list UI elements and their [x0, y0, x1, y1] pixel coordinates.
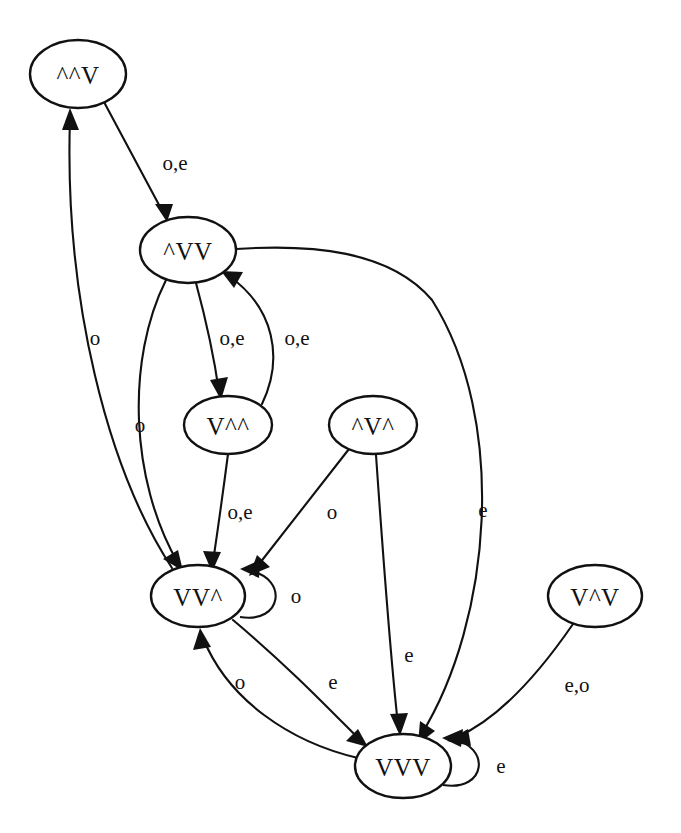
edge-vvu-to-vvv	[233, 620, 368, 747]
state-label: VVV	[375, 754, 431, 781]
edge-path	[203, 638, 358, 758]
state-label: VV^	[173, 584, 222, 611]
edge-label-vvv-to-vvu: o	[235, 670, 246, 694]
edge-label-hvu-to-vvv: e	[404, 643, 413, 667]
state-node-v-v-v[interactable]: VVV	[355, 734, 451, 798]
arrowhead-icon	[442, 729, 463, 747]
edge-label-hvv-to-vvu: o	[135, 413, 146, 437]
state-label: ^VV	[163, 238, 212, 265]
state-node-v-head-head[interactable]: V^^	[184, 396, 272, 454]
edge-hvv-to-vvu	[139, 280, 183, 571]
edge-label-vvu-self-loop: o	[291, 584, 302, 608]
edge-path	[236, 248, 482, 735]
state-diagram-canvas: ^^V ^VV V^^ ^V^ VV^ V^V VVV o,e o	[0, 0, 681, 833]
state-label: V^V	[570, 584, 619, 611]
state-label: ^^V	[56, 62, 99, 89]
edge-label-vvv-self-loop: e	[496, 754, 505, 778]
edge-label-hvv-to-vhh: o,e	[219, 326, 244, 350]
edge-path	[457, 624, 573, 737]
arrowhead-icon	[193, 628, 211, 650]
edge-path	[376, 455, 398, 725]
edge-label-vhh-to-vvu: o,e	[227, 500, 252, 524]
edge-path	[104, 102, 166, 218]
state-label: ^V^	[351, 413, 394, 440]
edge-vhh-to-vvu	[203, 454, 228, 572]
edge-label-vhv-to-vvv: e,o	[564, 673, 589, 697]
edge-vvv-to-hvv	[236, 248, 482, 744]
arrowhead-icon	[62, 108, 79, 130]
edge-label-hvu-to-vvu: o	[327, 500, 338, 524]
state-label: V^^	[206, 413, 249, 440]
edge-label-head-to-hvv: o,e	[162, 151, 187, 175]
state-node-head-v-v[interactable]: ^VV	[140, 217, 236, 283]
edge-label-vhh-to-hvv: o,e	[284, 326, 309, 350]
state-node-head-v-head[interactable]: ^V^	[329, 396, 417, 454]
edge-label-vvu-to-head: o	[90, 326, 101, 350]
state-node-v-v-head[interactable]: VV^	[151, 565, 245, 627]
state-machine-graph: ^^V ^VV V^^ ^V^ VV^ V^V VVV o,e o	[0, 0, 681, 833]
edge-vhv-to-vvv	[447, 624, 573, 746]
edge-vvu-self-loop	[240, 560, 276, 618]
edge-hvu-to-vvv	[376, 455, 408, 736]
edge-label-vvv-to-hvv: e	[478, 498, 487, 522]
edge-label-vvu-to-vvv: e	[328, 670, 337, 694]
state-node-v-head-v[interactable]: V^V	[548, 565, 642, 627]
arrowhead-icon	[346, 729, 368, 747]
edge-path	[196, 283, 219, 392]
edge-path	[69, 118, 172, 568]
edge-vvu-to-head	[62, 108, 172, 568]
state-node-head-head-v[interactable]: ^^V	[30, 40, 126, 108]
edge-path	[233, 620, 360, 740]
edge-path	[213, 454, 228, 562]
arrowhead-icon	[390, 713, 408, 736]
